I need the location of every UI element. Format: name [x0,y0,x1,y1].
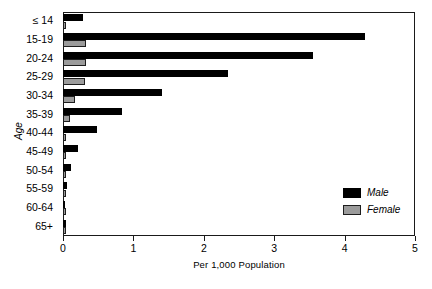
bar-male [63,52,313,59]
bar-chart: ≤ 1415-1920-2425-2930-3435-3940-4445-495… [0,0,432,289]
y-axis-tick-label: 65+ [0,221,53,232]
bar-group [63,161,415,180]
bar-female [63,59,86,66]
x-axis-title: Per 1,000 Population [63,259,415,270]
bar-group [63,217,415,236]
x-axis-tick [415,236,416,241]
legend-label: Male [367,186,389,200]
bar-group [63,143,415,162]
bar-group [63,31,415,50]
bar-group [63,105,415,124]
y-axis-tick-label: 50-54 [0,165,53,176]
bar-female [63,96,75,103]
y-axis-tick-label: 55-59 [0,183,53,194]
y-axis-tick-labels: ≤ 1415-1920-2425-2930-3435-3940-4445-495… [0,12,59,236]
x-axis-tick-label: 3 [259,242,289,254]
x-axis-tick [133,236,134,241]
x-axis-tick [204,236,205,241]
bar-group [63,49,415,68]
bar-female [63,40,86,47]
y-axis-tick-label: ≤ 14 [0,15,53,26]
bar-male [63,126,97,133]
bar-male [63,89,162,96]
bar-female [63,22,66,29]
legend-label: Female [367,203,400,217]
x-axis-tick-label: 0 [48,242,78,254]
y-axis-tick-label: 35-39 [0,109,53,120]
bar-male [63,201,65,208]
y-axis-tick-label: 45-49 [0,146,53,157]
chart-legend: MaleFemale [343,186,413,220]
bar-male [63,70,228,77]
bar-male [63,108,122,115]
legend-entry: Female [343,203,413,218]
x-axis-tick [274,236,275,241]
bar-female [63,190,66,197]
y-axis-tick-label: 40-44 [0,127,53,138]
bar-female [63,115,70,122]
bar-female [63,208,66,215]
bar-female [63,227,66,234]
bar-male [63,14,83,21]
legend-entry: Male [343,186,413,201]
y-axis-title: Age [13,122,24,140]
bar-male [63,164,71,171]
bar-male [63,220,66,227]
bar-group [63,124,415,143]
x-axis-tick-labels: 012345 [63,242,415,256]
x-axis-tick-label: 2 [189,242,219,254]
y-axis-tick-label: 30-34 [0,90,53,101]
bar-male [63,33,365,40]
x-axis-tick-label: 5 [400,242,430,254]
y-axis-tick-label: 20-24 [0,53,53,64]
legend-swatch-male [343,188,361,198]
y-axis-tick-label: 60-64 [0,202,53,213]
bar-female [63,171,66,178]
bar-female [63,152,66,159]
bar-group [63,87,415,106]
bar-female [63,78,85,85]
bar-female [63,134,66,141]
bar-male [63,145,78,152]
y-axis-tick-label: 25-29 [0,71,53,82]
x-axis-tick [345,236,346,241]
x-axis-tick-label: 1 [118,242,148,254]
legend-swatch-female [343,205,361,215]
bar-male [63,182,67,189]
x-axis-tick [63,236,64,241]
bar-group [63,68,415,87]
x-axis-tick-label: 4 [330,242,360,254]
y-axis-tick-label: 15-19 [0,34,53,45]
bar-group [63,12,415,31]
